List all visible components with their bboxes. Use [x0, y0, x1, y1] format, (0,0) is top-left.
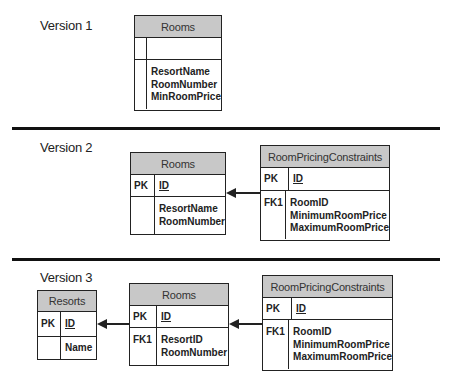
section-divider-1: [12, 127, 440, 130]
attribute: MinimumRoomPrice: [293, 339, 392, 352]
v2-rpc-pk-row: PK ID: [261, 168, 389, 191]
v3-rooms-attributes: ResortID RoomNumber: [157, 328, 228, 365]
version-2-label: Version 2: [40, 140, 92, 155]
v3-room-pricing-constraints-entity[interactable]: RoomPricingConstraints PK ID FK1 RoomID …: [262, 275, 393, 371]
v3-rooms-pk-key: PK: [130, 306, 157, 327]
v3-rpc-body-row: FK1 RoomID MinimumRoomPrice MaximumRoomP…: [263, 320, 392, 369]
v3-resorts-body-row: Name: [38, 337, 96, 359]
v2-rpc-pk-key: PK: [261, 168, 289, 190]
v1-rooms-body-row: ResortName RoomNumber MinRoomPrice: [135, 60, 221, 109]
v3-rooms-body-key: FK1: [130, 328, 157, 365]
v2-rooms-pk-row: PK ID: [131, 175, 225, 197]
v3-rooms-pk-row: PK ID: [130, 306, 228, 328]
v3-rooms-pk-attr: ID: [157, 306, 228, 327]
attribute: MinRoomPrice: [151, 91, 221, 104]
attribute: RoomNumber: [159, 216, 225, 229]
v3-resorts-pk-row: PK ID: [38, 312, 96, 337]
v2-rpc-body-key: FK1: [261, 191, 286, 239]
attribute: RoomNumber: [151, 79, 221, 92]
v2-rooms-entity[interactable]: Rooms PK ID ResortName RoomNumber: [130, 152, 226, 235]
v2-rooms-body-key: [131, 197, 155, 234]
v3-rpc-pk-key: PK: [263, 298, 292, 319]
v1-rooms-pk-row: [135, 38, 221, 60]
v2-rooms-header: Rooms: [131, 153, 225, 175]
v2-rooms-pk-attr: ID: [155, 175, 225, 196]
v3-rpc-to-rooms-arrowhead-icon: [229, 319, 239, 329]
v3-resorts-pk-key: PK: [38, 312, 61, 336]
v3-rpc-body-key: FK1: [263, 320, 289, 369]
v2-rooms-body-row: ResortName RoomNumber: [131, 197, 225, 234]
v2-room-pricing-constraints-entity[interactable]: RoomPricingConstraints PK ID FK1 RoomID …: [260, 145, 390, 241]
attribute: RoomNumber: [161, 347, 228, 360]
v3-rpc-pk-row: PK ID: [263, 298, 392, 320]
attribute: MaximumRoomPrice: [293, 351, 392, 364]
version-1-label: Version 1: [40, 18, 92, 33]
v3-rooms-entity[interactable]: Rooms PK ID FK1 ResortID RoomNumber: [129, 283, 229, 366]
v3-resorts-pk-attr: ID: [61, 312, 96, 336]
attribute: MaximumRoomPrice: [290, 222, 389, 235]
attribute: ResortName: [159, 203, 225, 216]
v3-resorts-body-key: [38, 337, 61, 359]
v2-rpc-header: RoomPricingConstraints: [261, 146, 389, 168]
v3-resorts-header: Resorts: [38, 291, 96, 312]
v1-rooms-attributes: ResortName RoomNumber MinRoomPrice: [147, 60, 221, 109]
attribute: MinimumRoomPrice: [290, 210, 389, 223]
v1-rooms-header: Rooms: [135, 16, 221, 38]
v2-rpc-to-rooms-arrowhead-icon: [226, 188, 236, 198]
v3-rpc-pk-attr: ID: [292, 298, 392, 319]
v3-resorts-entity[interactable]: Resorts PK ID Name: [37, 290, 97, 360]
v2-rpc-pk-attr: ID: [289, 168, 389, 190]
v3-rpc-header: RoomPricingConstraints: [263, 276, 392, 298]
version-3-label: Version 3: [40, 270, 92, 285]
v3-rooms-to-resorts-arrowhead-icon: [97, 319, 107, 329]
v1-rooms-pk-attr: [147, 38, 221, 59]
v3-rpc-attributes: RoomID MinimumRoomPrice MaximumRoomPrice: [289, 320, 392, 369]
v3-rooms-header: Rooms: [130, 284, 228, 306]
v1-rooms-entity[interactable]: Rooms ResortName RoomNumber MinRoomPrice: [134, 15, 222, 111]
attribute: Name: [65, 342, 96, 355]
attribute: RoomID: [293, 326, 392, 339]
attribute: ResortName: [151, 66, 221, 79]
v3-resorts-attributes: Name: [61, 337, 96, 359]
v2-rooms-attributes: ResortName RoomNumber: [155, 197, 225, 234]
attribute: ResortID: [161, 334, 228, 347]
v2-rpc-body-row: FK1 RoomID MinimumRoomPrice MaximumRoomP…: [261, 191, 389, 239]
v2-rpc-attributes: RoomID MinimumRoomPrice MaximumRoomPrice: [286, 191, 389, 239]
v2-rooms-pk-key: PK: [131, 175, 155, 196]
v1-rooms-pk-key: [135, 38, 147, 59]
attribute: RoomID: [290, 197, 389, 210]
v3-rooms-body-row: FK1 ResortID RoomNumber: [130, 328, 228, 365]
section-divider-2: [12, 258, 440, 261]
v1-rooms-body-key: [135, 60, 147, 109]
